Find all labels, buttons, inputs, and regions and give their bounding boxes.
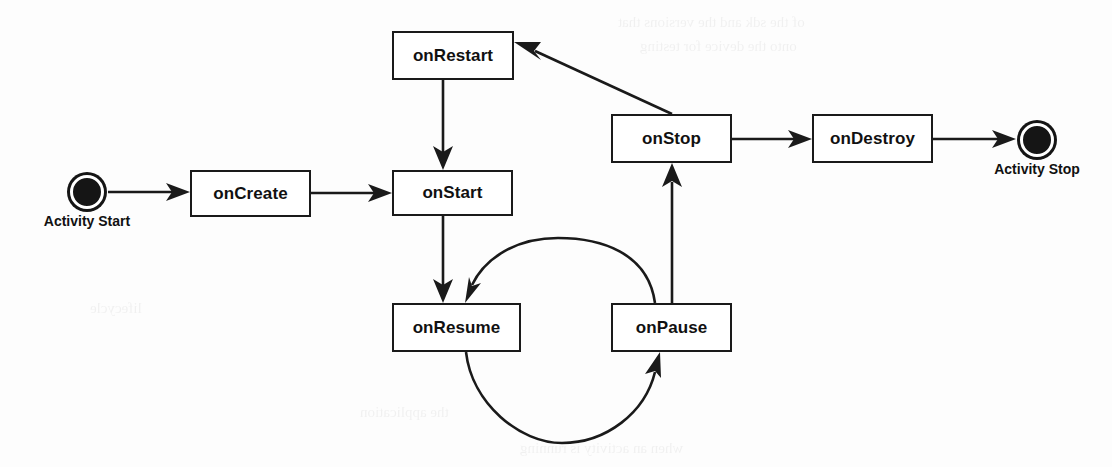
edge-onresume-to-onpause [466, 352, 661, 443]
activity-stop-disc [1020, 123, 1054, 157]
node-onresume[interactable]: onResume [392, 303, 521, 352]
edge-start-to-oncreate [108, 183, 190, 201]
diagram-edges [0, 0, 1112, 467]
activity-stop-marker [1020, 123, 1054, 157]
edge-onrestart-to-onstart [433, 80, 453, 170]
node-ondestroy[interactable]: onDestroy [812, 114, 933, 163]
edge-onstop-to-onrestart [514, 42, 672, 114]
edge-onpause-to-onresume [465, 238, 655, 303]
activity-lifecycle-diagram: Activity Start Activity Stop onRestart o… [0, 0, 1112, 467]
node-onstop[interactable]: onStop [611, 114, 732, 163]
edge-onpause-to-onstop [662, 163, 682, 303]
activity-start-label: Activity Start [36, 213, 138, 229]
node-onpause[interactable]: onPause [611, 303, 732, 352]
node-onrestart[interactable]: onRestart [392, 31, 514, 80]
edge-onstart-to-onresume [433, 216, 453, 303]
node-onstart[interactable]: onStart [392, 170, 513, 216]
activity-start-disc [70, 175, 104, 209]
activity-stop-label: Activity Stop [986, 161, 1088, 177]
edge-oncreate-to-onstart [311, 184, 392, 202]
edge-onstop-to-ondestroy [732, 130, 812, 148]
diagram-canvas: of the sdk and the versions thatonto the… [0, 0, 1112, 467]
activity-start-marker [70, 175, 104, 209]
node-oncreate[interactable]: onCreate [190, 170, 311, 217]
edge-ondestroy-to-activity-stop [933, 130, 1016, 148]
